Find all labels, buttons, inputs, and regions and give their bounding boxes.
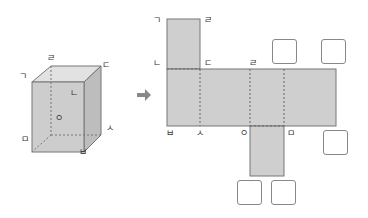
cube-label-o: ㅇ: [55, 114, 63, 123]
net-label-bot-s: ㅅ: [196, 129, 204, 138]
cube-label-n: ㄴ: [70, 89, 78, 98]
answer-box-1[interactable]: [272, 39, 297, 64]
answer-box-4[interactable]: [237, 180, 262, 205]
cube-label-d: ㄷ: [102, 61, 110, 70]
cube-net: [167, 19, 336, 176]
net-label-top-left: ㄱ: [153, 16, 161, 25]
cube-figure: [32, 66, 101, 152]
arrow-icon: [137, 89, 151, 101]
net-label-mid-left: ㄴ: [153, 59, 161, 68]
diagram-canvas: [0, 0, 368, 218]
net-label-bot-m: ㅁ: [287, 129, 295, 138]
answer-box-3[interactable]: [323, 130, 348, 155]
cube-label-s: ㅅ: [106, 124, 114, 133]
cube-label-m: ㅁ: [21, 135, 29, 144]
net-label-bot-b: ㅂ: [166, 129, 174, 138]
answer-box-5[interactable]: [271, 180, 296, 205]
net-label-mid-d: ㄷ: [204, 59, 212, 68]
net-label-mid-r: ㄹ: [249, 59, 257, 68]
net-label-top-right: ㄹ: [204, 16, 212, 25]
cube-label-b: ㅂ: [79, 148, 87, 157]
cube-label-g: ㄱ: [19, 72, 27, 81]
net-label-bot-o: ㅇ: [240, 129, 248, 138]
cube-label-r: ㄹ: [47, 54, 55, 63]
answer-box-2[interactable]: [321, 39, 346, 64]
